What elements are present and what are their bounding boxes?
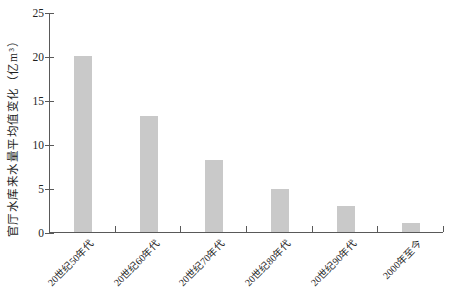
y-axis-tick (45, 101, 54, 102)
y-axis-tick (45, 189, 54, 190)
bar (205, 160, 223, 232)
bar (271, 189, 289, 232)
y-axis-tick-label: 15 (0, 94, 44, 108)
y-axis-tick (45, 145, 54, 146)
x-axis-tick (312, 226, 313, 232)
x-axis-tick (180, 226, 181, 232)
x-axis-label: 20世纪60年代 (111, 238, 162, 289)
bar (74, 56, 92, 232)
x-axis-label: 2000年至今 (381, 238, 425, 282)
x-axis-tick (246, 226, 247, 232)
y-axis-tick-label: 0 (0, 226, 44, 240)
x-axis-tick (115, 226, 116, 232)
bar (140, 116, 158, 232)
y-axis-tick-label: 25 (0, 6, 44, 20)
y-axis-tick-label: 10 (0, 138, 44, 152)
x-axis-label: 20世纪80年代 (242, 238, 293, 289)
bar (337, 206, 355, 232)
x-axis-tick (377, 226, 378, 232)
plot-area (49, 13, 443, 233)
y-axis-tick (45, 13, 54, 14)
y-axis-tick-label: 5 (0, 182, 44, 196)
x-axis-tick (443, 226, 444, 232)
y-axis-tick (45, 57, 54, 58)
bar-chart-figure: 官厅水库来水量平均值变化（亿m³） 051015202520世纪50年代20世纪… (0, 0, 456, 301)
x-axis-label: 20世纪70年代 (177, 238, 228, 289)
y-axis-title: 官厅水库来水量平均值变化（亿m³） (4, 34, 20, 237)
bar (402, 223, 420, 232)
x-axis-label: 20世纪90年代 (308, 238, 359, 289)
y-axis-tick-label: 20 (0, 50, 44, 64)
y-axis-tick (45, 233, 54, 234)
x-axis-label: 20世纪50年代 (45, 238, 96, 289)
